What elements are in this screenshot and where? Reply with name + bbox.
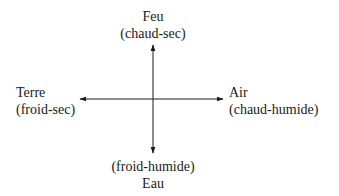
element-air-label: Air (chaud-humide)	[229, 84, 318, 118]
element-name: Terre	[16, 84, 75, 101]
element-eau-label: (froid-humide) Eau	[98, 158, 208, 192]
element-name: Eau	[98, 175, 208, 192]
element-qualities: (froid-sec)	[16, 101, 75, 118]
element-terre-label: Terre (froid-sec)	[16, 84, 75, 118]
four-elements-diagram: Feu (chaud-sec) Terre (froid-sec) Air (c…	[0, 0, 339, 196]
element-name: Feu	[103, 8, 203, 25]
element-feu-label: Feu (chaud-sec)	[103, 8, 203, 42]
element-qualities: (chaud-humide)	[229, 101, 318, 118]
element-qualities: (chaud-sec)	[103, 25, 203, 42]
element-qualities: (froid-humide)	[98, 158, 208, 175]
element-name: Air	[229, 84, 318, 101]
